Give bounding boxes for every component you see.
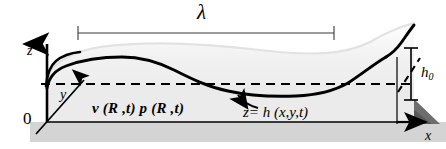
- x-axis-label: x: [425, 129, 431, 143]
- floor-shadow-strip: [30, 122, 446, 142]
- surface-equation-label: z= h (x,y,t): [243, 105, 308, 120]
- wavelength-bracket: [78, 26, 334, 40]
- diagram-canvas: [0, 0, 446, 149]
- wavelength-label: λ: [197, 2, 206, 23]
- depth-symbol: h: [421, 64, 429, 80]
- fluid-layer-diagram: λ z y x 0 h0 v (R ,t) p (R ,t) z= h (x,y…: [0, 0, 446, 149]
- origin-label: 0: [23, 110, 32, 127]
- y-axis-label: y: [60, 88, 66, 102]
- depth-label: h0: [421, 65, 434, 82]
- z-axis-label: z: [27, 44, 32, 58]
- depth-subscript: 0: [429, 71, 434, 82]
- field-variables-label: v (R ,t) p (R ,t): [92, 101, 184, 116]
